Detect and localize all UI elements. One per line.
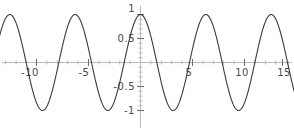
plot-svg: -10 -5 5 10 15 1 0.5 -0.5 -1 (0, 0, 294, 135)
y-tick-label-1: 1 (128, 3, 135, 14)
x-tick-label-neg10: -10 (21, 67, 39, 78)
plot-canvas: -10 -5 5 10 15 1 0.5 -0.5 -1 (0, 0, 294, 135)
y-tick-label-neg1: -1 (124, 105, 135, 116)
x-tick-label-neg5: -5 (79, 67, 90, 78)
y-tick-label-0point5: 0.5 (118, 33, 135, 44)
y-tick-label-neg0point5: -0.5 (113, 81, 135, 92)
x-tick-label-10: 10 (235, 67, 249, 78)
